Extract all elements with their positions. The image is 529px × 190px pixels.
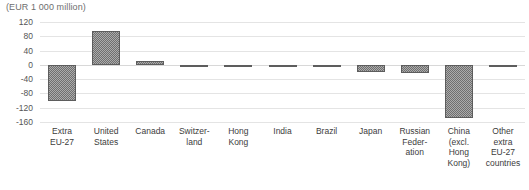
y-tick-label: 120: [19, 18, 33, 27]
x-tick-label: OtherextraEU-27countries: [481, 126, 525, 168]
x-tick-label-line: EU-27: [40, 137, 84, 148]
x-tick-label-line: Other: [481, 126, 525, 137]
x-tick-label-line: Russian: [393, 126, 437, 137]
bar[interactable]: [92, 31, 120, 65]
x-tick-label-line: Japan: [349, 126, 393, 137]
bar[interactable]: [313, 65, 341, 67]
bar[interactable]: [136, 61, 164, 65]
x-tick-label-line: countries: [481, 158, 525, 169]
x-tick-label: Switzer-land: [172, 126, 216, 147]
x-tick-label: ExtraEU-27: [40, 126, 84, 147]
x-tick-label-line: land: [172, 137, 216, 148]
bar[interactable]: [489, 65, 517, 68]
x-tick-label-line: Canada: [128, 126, 172, 137]
x-tick-label: UnitedStates: [84, 126, 128, 147]
bar[interactable]: [269, 65, 297, 67]
x-tick-label-line: India: [260, 126, 304, 137]
x-tick-label: RussianFeder-ation: [393, 126, 437, 158]
bar[interactable]: [48, 65, 76, 101]
gridline: [40, 122, 525, 123]
x-tick-label-line: (excl.: [437, 137, 481, 148]
x-tick-label-line: United: [84, 126, 128, 137]
bar[interactable]: [401, 65, 429, 73]
bar[interactable]: [180, 65, 208, 67]
x-tick-label-line: Kong: [216, 137, 260, 148]
y-tick-label: -80: [21, 89, 33, 98]
x-tick-label-line: Extra: [40, 126, 84, 137]
x-tick-label-line: Switzer-: [172, 126, 216, 137]
x-tick-label: Brazil: [305, 126, 349, 137]
bar[interactable]: [224, 65, 252, 67]
bars-layer: [40, 22, 525, 122]
y-tick-label: 40: [24, 46, 33, 55]
x-tick-label-line: Kong): [437, 158, 481, 169]
x-tick-label-line: ation: [393, 147, 437, 158]
bar[interactable]: [445, 65, 473, 119]
x-tick-label: HongKong: [216, 126, 260, 147]
x-tick-label: Canada: [128, 126, 172, 137]
x-tick-label: India: [260, 126, 304, 137]
x-tick-label-line: China: [437, 126, 481, 137]
bar-chart: (EUR 1 000 million) 12080400-40-80-120-1…: [0, 0, 529, 190]
plot-area: [40, 22, 525, 122]
y-tick-label: 80: [24, 32, 33, 41]
chart-title: (EUR 1 000 million): [6, 2, 86, 12]
y-tick-label: -160: [16, 118, 33, 127]
y-tick-label: -120: [16, 103, 33, 112]
y-tick-label: 0: [28, 61, 33, 70]
x-tick-label-line: Hong: [216, 126, 260, 137]
x-tick-label-line: Hong: [437, 147, 481, 158]
y-axis: 12080400-40-80-120-160: [0, 22, 36, 122]
x-tick-label: China(excl.HongKong): [437, 126, 481, 168]
x-tick-label-line: extra: [481, 137, 525, 148]
x-tick-label-line: States: [84, 137, 128, 148]
x-axis: ExtraEU-27UnitedStatesCanadaSwitzer-land…: [40, 126, 525, 188]
x-tick-label-line: Brazil: [305, 126, 349, 137]
y-tick-label: -40: [21, 75, 33, 84]
bar[interactable]: [357, 65, 385, 72]
x-tick-label-line: EU-27: [481, 147, 525, 158]
x-tick-label: Japan: [349, 126, 393, 137]
x-tick-label-line: Feder-: [393, 137, 437, 148]
